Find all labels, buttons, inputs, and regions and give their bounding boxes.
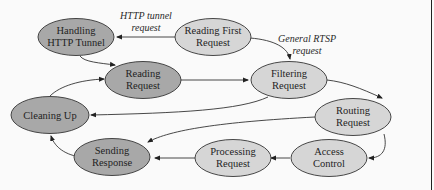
svg-text:Reading First: Reading First [185, 25, 242, 36]
state-diagram: HTTP tunnel request General RTSP request… [0, 0, 434, 190]
svg-text:Control: Control [313, 158, 345, 169]
node-cleaning-up: Cleaning Up [11, 97, 89, 134]
edge-routing-to-access [369, 134, 385, 158]
edge-label-http-tunnel: request [131, 22, 160, 33]
edge-cleaning-to-reading [50, 79, 104, 96]
node-sending-response: Sending Response [74, 139, 150, 176]
svg-text:Request: Request [336, 117, 370, 128]
svg-text:Request: Request [126, 80, 160, 91]
svg-text:Handling: Handling [56, 25, 96, 36]
node-filtering-request: Filtering Request [251, 62, 327, 99]
svg-text:Reading: Reading [126, 68, 162, 79]
svg-text:Filtering: Filtering [271, 68, 308, 79]
svg-text:Request: Request [196, 37, 230, 48]
edge-routing-to-sending [148, 117, 315, 142]
svg-text:Cleaning Up: Cleaning Up [23, 110, 76, 121]
node-routing-request: Routing Request [315, 99, 391, 136]
node-handling-http-tunnel: Handling HTTP Tunnel [38, 19, 114, 56]
svg-text:Processing: Processing [210, 146, 256, 157]
edge-label-general-rtsp: General RTSP [278, 33, 336, 44]
page-border [431, 0, 432, 190]
edge-filtering-to-cleaning [91, 97, 268, 115]
node-reading-request: Reading Request [105, 62, 181, 99]
node-processing-request: Processing Request [195, 140, 271, 177]
svg-text:HTTP Tunnel: HTTP Tunnel [47, 37, 105, 48]
svg-text:Access: Access [314, 146, 344, 157]
svg-text:Request: Request [272, 80, 306, 91]
edge-filtering-to-routing [327, 80, 382, 98]
svg-text:Request: Request [216, 158, 250, 169]
node-reading-first-request: Reading First Request [175, 19, 251, 56]
svg-text:Sending: Sending [95, 145, 130, 156]
svg-text:Routing: Routing [336, 105, 371, 116]
edge-label-http-tunnel: HTTP tunnel [119, 10, 172, 21]
svg-text:Response: Response [92, 157, 133, 168]
node-access-control: Access Control [291, 140, 367, 177]
edge-http-tunnel-to-reading [80, 56, 115, 65]
edge-label-general-rtsp: request [292, 45, 321, 56]
